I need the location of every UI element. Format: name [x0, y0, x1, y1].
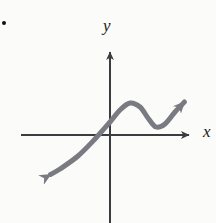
graph-figure: y x	[0, 0, 216, 223]
y-axis-label: y	[103, 17, 111, 34]
x-axis-label: x	[203, 123, 211, 140]
function-curve	[51, 102, 185, 174]
